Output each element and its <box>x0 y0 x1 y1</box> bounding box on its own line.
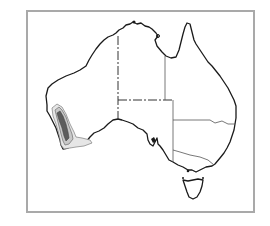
australia-map <box>0 0 270 226</box>
mainland-coastline <box>46 22 236 172</box>
island <box>133 21 136 24</box>
island <box>187 170 190 173</box>
border-nsw-vic <box>173 150 214 165</box>
island <box>182 177 184 179</box>
tasmania-coastline <box>183 179 203 199</box>
border-qld-nsw <box>173 120 235 124</box>
island <box>202 177 204 179</box>
